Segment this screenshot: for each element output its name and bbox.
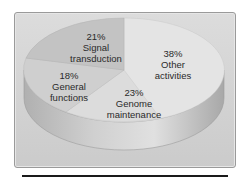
label-general-functions-percent: 18% — [59, 70, 79, 81]
label-other-activities-line2: activities — [155, 70, 192, 81]
caption-rule — [22, 175, 228, 177]
label-signal-transduction-line2: transduction — [70, 53, 122, 64]
label-other-activities-percent: 38% — [163, 48, 183, 59]
label-genome-maintenance-line1: Genome — [116, 98, 152, 109]
label-signal-transduction-percent: 21% — [86, 31, 106, 42]
label-signal-transduction-line1: Signal — [83, 42, 109, 53]
label-genome-maintenance-line2: maintenance — [107, 109, 161, 120]
label-general-functions-line1: General — [52, 81, 86, 92]
label-other-activities-line1: Other — [161, 59, 185, 70]
label-genome-maintenance-percent: 23% — [124, 87, 144, 98]
label-general-functions-line2: functions — [50, 92, 88, 103]
pie-chart: 21% Signal transduction 18% General func… — [0, 0, 247, 184]
